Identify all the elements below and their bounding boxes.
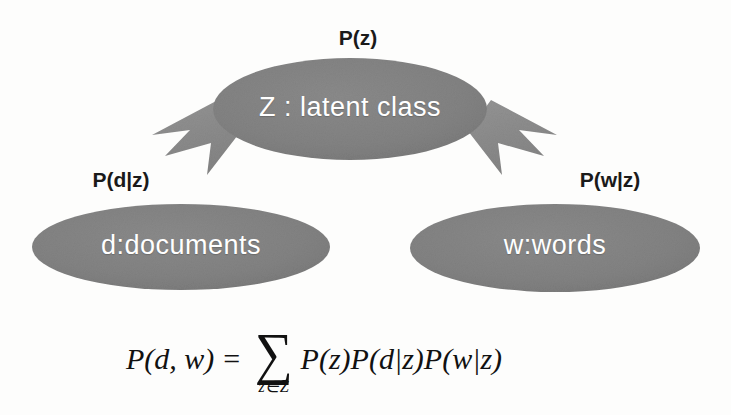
- plsa-diagram: Z : latent class d:documents w:words P(z…: [0, 0, 731, 415]
- node-d-documents: [32, 204, 330, 290]
- formula-summation: ∑ z∈Z: [253, 331, 294, 394]
- sigma-icon: ∑: [255, 331, 293, 376]
- node-z-latent-class: [213, 58, 487, 160]
- formula-term2-p: P: [351, 344, 369, 374]
- formula-equals: =: [214, 344, 249, 374]
- label-p-w-given-z: P(w|z): [548, 168, 672, 192]
- plsa-formula: P(d, w) = ∑ z∈Z P(z) P(d|z) P(w|z): [126, 318, 606, 400]
- formula-term1-p: P: [301, 344, 319, 374]
- label-p-z: P(z): [310, 26, 406, 50]
- label-p-d-given-z: P(d|z): [62, 168, 180, 192]
- formula-term1-args: (z): [319, 344, 351, 374]
- formula-term-pz: P(z): [301, 344, 351, 374]
- formula-term2-args: (d|z): [369, 344, 424, 374]
- formula-lhs-args: (d, w): [144, 344, 214, 374]
- node-w-words: [410, 204, 700, 292]
- formula-term-pwz: P(w|z): [424, 344, 502, 374]
- formula-lhs: P(d, w): [126, 344, 214, 374]
- formula-term-pdz: P(d|z): [351, 344, 424, 374]
- formula-term3-p: P: [424, 344, 442, 374]
- formula-lhs-p: P: [126, 344, 144, 374]
- formula-term3-args: (w|z): [442, 344, 502, 374]
